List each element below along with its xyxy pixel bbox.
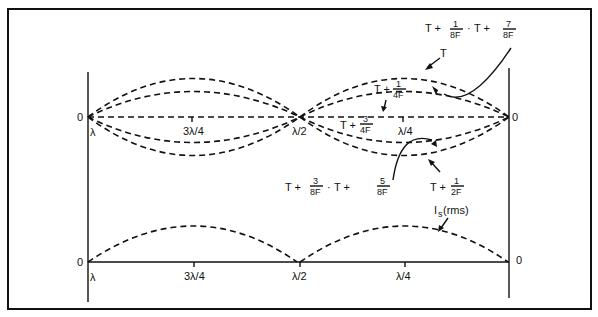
svg-text:4F: 4F: [393, 90, 404, 100]
svg-text:2F: 2F: [451, 187, 462, 197]
svg-text:·: ·: [327, 181, 331, 193]
svg-text:1: 1: [453, 19, 458, 29]
svg-text:8F: 8F: [503, 30, 514, 40]
svg-text:T +: T +: [374, 83, 390, 95]
svg-text:8F: 8F: [450, 30, 461, 40]
svg-text:I: I: [434, 204, 437, 216]
top-plot: 0 0 λ 3λ/4 λ/2 λ/4 T T + 1 8F · T + 7 8F…: [77, 19, 518, 197]
bottom-tick-label-l4: λ/4: [396, 270, 411, 282]
svg-text:5: 5: [380, 176, 385, 186]
label-t-1-2f: T + 1 2F: [430, 176, 464, 197]
svg-text:8F: 8F: [377, 187, 388, 197]
label-t-3-8f-5-8f: T + 3 8F · T + 5 8F: [285, 176, 390, 197]
standing-wave-diagram: 0 0 λ 3λ/4 λ/2 λ/4 T T + 1 8F · T + 7 8F…: [0, 0, 598, 317]
bottom-tick-label-l2: λ/2: [292, 270, 307, 282]
svg-text:T +: T +: [334, 181, 350, 193]
svg-text:4F: 4F: [360, 125, 371, 135]
curve-t-1-4f-right: [300, 92, 509, 118]
bottom-origin-left: 0: [77, 256, 83, 268]
svg-text:3: 3: [313, 176, 318, 186]
label-is-rms: I s (rms): [434, 204, 469, 219]
arrow-is-rms: [441, 218, 448, 228]
svg-text:T +: T +: [425, 22, 441, 34]
bottom-plot: 0 0 λ 3λ/4 λ/2 λ/4 I s (rms): [77, 204, 522, 283]
top-tick-label-l4: λ/4: [398, 125, 413, 137]
svg-text:·: ·: [467, 22, 471, 34]
curve-t-left: [88, 79, 300, 118]
top-tick-label-3l4: 3λ/4: [183, 125, 204, 137]
bottom-origin-right: 0: [516, 254, 522, 266]
svg-text:T +: T +: [340, 119, 356, 131]
arrow-t-1-4f-head: [381, 106, 387, 112]
top-tick-label-l2: λ/2: [292, 125, 307, 137]
curve-t-right: [300, 79, 509, 118]
pointer-t-1-8f: [444, 48, 511, 97]
svg-text:8F: 8F: [310, 187, 321, 197]
svg-text:7: 7: [506, 19, 511, 29]
curve-t-1-8f-left: [88, 92, 300, 118]
label-t: T: [440, 47, 447, 59]
svg-text:T +: T +: [285, 181, 301, 193]
svg-text:1: 1: [454, 176, 459, 186]
top-tick-label-lambda: λ: [90, 126, 96, 138]
curve-is-rms-right: [300, 226, 508, 262]
svg-text:T +: T +: [474, 22, 490, 34]
top-origin-right: 0: [512, 111, 518, 123]
curve-is-rms-left: [88, 226, 297, 262]
label-t-1-4f: T + 1 4F: [374, 79, 406, 100]
svg-text:(rms): (rms): [443, 204, 469, 216]
svg-text:3: 3: [363, 114, 368, 124]
top-origin-left: 0: [77, 111, 83, 123]
label-t-1-8f-7-8f: T + 1 8F · T + 7 8F: [425, 19, 516, 40]
pointer-t-3-8f: [393, 138, 432, 180]
bottom-tick-label-3l4: 3λ/4: [184, 270, 205, 282]
svg-text:1: 1: [396, 79, 401, 89]
bottom-tick-label-lambda: λ: [90, 271, 96, 283]
svg-text:T +: T +: [430, 181, 446, 193]
